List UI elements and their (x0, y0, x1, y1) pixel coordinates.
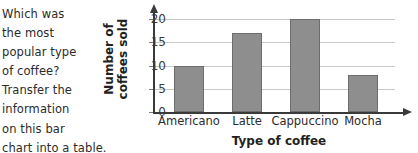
plot-area: 20 15 10 5 0 Americano Latte Cappuccino … (153, 0, 418, 153)
y-tick-label-10: 10 (126, 60, 166, 72)
x-axis-arrow-icon (403, 108, 412, 116)
y-tick-label-15: 15 (126, 36, 166, 48)
bar-latte (232, 33, 262, 112)
bar-cappuccino (290, 19, 320, 112)
y-axis-title-line: Number of (102, 23, 117, 94)
bar-americano (174, 66, 204, 113)
bar-mocha (348, 75, 378, 112)
y-axis-arrow-icon (150, 4, 158, 13)
x-axis-title: Type of coffee (153, 134, 405, 148)
y-axis-line (153, 12, 155, 113)
bar-chart: Number of coffees sold 20 15 10 5 0 (86, 0, 418, 153)
question-line: on this bar (2, 120, 94, 139)
x-tick-label-cappuccino: Cappuccino (268, 115, 342, 128)
y-tick-label-5: 5 (126, 83, 166, 95)
y-tick-label-20: 20 (126, 13, 166, 25)
worksheet-question-figure: Which was the most popular type of coffe… (0, 0, 418, 153)
x-tick-label-mocha: Mocha (335, 115, 391, 128)
gridline-15 (153, 42, 395, 43)
gridline-20 (153, 19, 395, 20)
question-line: chart into a table. (2, 139, 94, 153)
